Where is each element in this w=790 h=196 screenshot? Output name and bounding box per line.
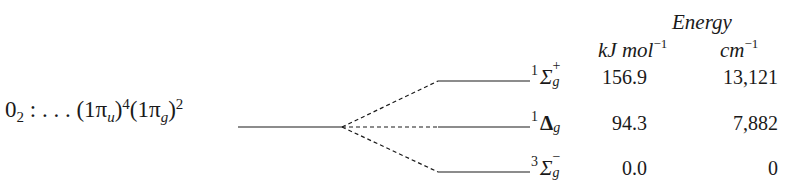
dashed-connector-lower	[342, 127, 438, 172]
parity: g	[552, 74, 559, 90]
reflection-symmetry: −	[552, 149, 560, 165]
reflection-symmetry: +	[552, 58, 560, 74]
multiplicity: 3	[531, 154, 538, 169]
term-symbol-sigma-plus: 1Σ+g	[531, 63, 564, 90]
term-symbol-delta: 1Δg	[531, 109, 565, 136]
energy-kj-value: 156.9	[602, 66, 647, 89]
term-symbol-sigma-minus: 3Σ−g	[531, 154, 564, 181]
energy-cm-value: 7,882	[733, 112, 778, 135]
energy-kj-value: 0.0	[622, 157, 647, 180]
multiplicity: 1	[531, 63, 538, 78]
dashed-connector-upper	[342, 81, 438, 127]
energy-kj-value: 94.3	[612, 112, 647, 135]
parity: g	[552, 165, 559, 181]
energy-cm-value: 0	[768, 157, 778, 180]
parity: g	[553, 120, 560, 136]
multiplicity: 1	[531, 109, 538, 124]
term-letter: Σ	[540, 156, 552, 180]
energy-cm-value: 13,121	[723, 66, 778, 89]
term-letter: Σ	[540, 65, 552, 89]
splitting-lines	[0, 0, 790, 196]
term-letter: Δ	[540, 111, 553, 135]
